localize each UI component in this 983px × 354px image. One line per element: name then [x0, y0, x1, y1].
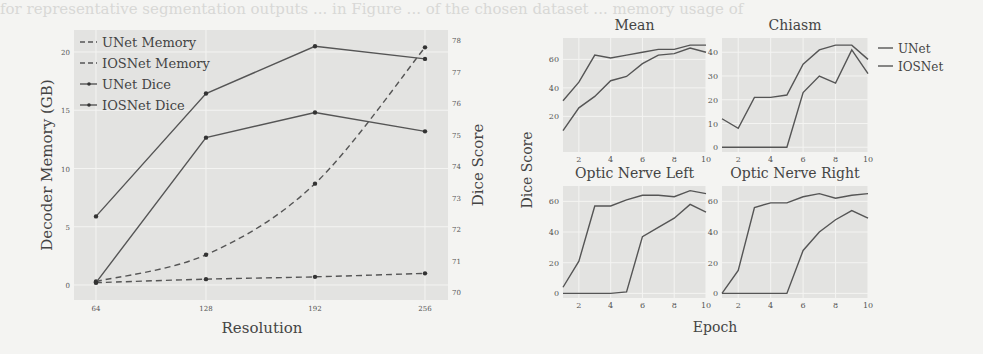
- x-tick-label: 2: [576, 301, 581, 310]
- x-axis-label: Resolution: [222, 319, 303, 337]
- legend-label: IOSNet Dice: [102, 98, 185, 113]
- data-point: [204, 253, 208, 257]
- y-axis-label: Decoder Memory (GB): [38, 79, 56, 250]
- data-point: [423, 271, 427, 275]
- data-point: [313, 44, 317, 48]
- data-point: [204, 277, 208, 281]
- x-tick-label: 4: [768, 301, 773, 310]
- legend-label: UNet Dice: [102, 77, 171, 92]
- data-point: [423, 129, 427, 133]
- y-tick-label: 10: [61, 166, 70, 174]
- x-tick-label: 192: [308, 305, 321, 313]
- memory-dice-chart: 0510152070717273747576777864128192256Res…: [38, 30, 487, 337]
- x-tick-label: 10: [701, 301, 711, 310]
- x-tick-label: 6: [640, 155, 645, 164]
- y-tick-label: 0: [66, 282, 70, 290]
- y-tick-label: 20: [708, 96, 718, 105]
- x-tick-label: 10: [701, 155, 711, 164]
- data-point: [94, 280, 98, 284]
- data-point: [204, 135, 208, 139]
- x-tick-label: 2: [736, 301, 741, 310]
- legend-label: UNet Memory: [102, 35, 197, 50]
- y-tick-label: 60: [549, 55, 559, 64]
- y-tick-label: 10: [708, 120, 718, 129]
- x-tick-label: 2: [736, 155, 741, 164]
- shared-y-axis-label: Dice Score: [519, 131, 535, 208]
- y-tick-label: 60: [708, 197, 718, 206]
- y-tick-label: 40: [549, 228, 559, 237]
- data-point: [204, 91, 208, 95]
- y-tick-label: 20: [708, 259, 718, 268]
- y-tick-label: 15: [61, 107, 70, 115]
- y-tick-label: 20: [549, 259, 559, 268]
- subplot-title: Optic Nerve Right: [730, 165, 860, 181]
- y2-tick-label: 76: [452, 100, 461, 108]
- x-tick-label: 6: [801, 301, 806, 310]
- y-tick-label: 40: [708, 48, 718, 57]
- figure: 0510152070717273747576777864128192256Res…: [0, 0, 983, 354]
- y-tick-label: 0: [554, 289, 559, 298]
- x-tick-label: 6: [801, 155, 806, 164]
- y-tick-label: 20: [549, 112, 559, 121]
- y2-tick-label: 75: [452, 132, 461, 140]
- y-tick-label: 30: [708, 72, 718, 81]
- subplot-chiasm: 010203040246810Chiasm: [708, 17, 873, 164]
- data-point: [94, 214, 98, 218]
- x-tick-label: 256: [418, 305, 432, 313]
- legend-label: IOSNet Memory: [102, 56, 210, 71]
- y2-tick-label: 77: [452, 69, 461, 77]
- x-tick-label: 64: [92, 305, 101, 313]
- right-legend-label: IOSNet: [898, 60, 943, 74]
- y-tick-label: 5: [66, 224, 70, 232]
- y2-axis-label: Dice Score: [469, 124, 487, 207]
- x-tick-label: 128: [199, 305, 212, 313]
- y2-tick-label: 71: [452, 258, 461, 266]
- subplot-mean: 204060246810Mean: [549, 17, 711, 164]
- y-tick-label: 40: [708, 228, 718, 237]
- y2-tick-label: 70: [452, 289, 461, 297]
- data-point: [313, 181, 317, 185]
- x-tick-label: 6: [640, 301, 645, 310]
- y2-tick-label: 73: [452, 195, 461, 203]
- x-tick-label: 2: [576, 155, 581, 164]
- right-legend-label: UNet: [898, 42, 931, 56]
- subplot-title: Optic Nerve Left: [575, 165, 694, 181]
- subplot-optic-nerve-left: 0204060246810Optic Nerve Left: [549, 165, 711, 310]
- x-tick-label: 10: [863, 301, 873, 310]
- y-tick-label: 0: [713, 289, 718, 298]
- subplot-title: Mean: [615, 17, 655, 33]
- x-tick-label: 4: [768, 155, 773, 164]
- y-tick-label: 0: [713, 143, 718, 152]
- data-point: [313, 110, 317, 114]
- y-tick-label: 60: [549, 197, 559, 206]
- data-point: [423, 45, 427, 49]
- y2-tick-label: 78: [452, 37, 461, 45]
- y2-tick-label: 72: [452, 226, 461, 234]
- y-tick-label: 20: [61, 49, 70, 57]
- shared-x-axis-label: Epoch: [693, 319, 737, 335]
- x-tick-label: 8: [672, 155, 677, 164]
- x-tick-label: 4: [608, 301, 613, 310]
- subplot-title: Chiasm: [768, 17, 821, 33]
- x-tick-label: 4: [608, 155, 613, 164]
- x-tick-label: 10: [863, 155, 873, 164]
- x-tick-label: 8: [833, 155, 838, 164]
- y2-tick-label: 74: [452, 163, 461, 171]
- data-point: [423, 57, 427, 61]
- x-tick-label: 8: [833, 301, 838, 310]
- data-point: [313, 275, 317, 279]
- subplot-optic-nerve-right: 0204060246810Optic Nerve Right: [708, 165, 873, 310]
- y-tick-label: 40: [549, 84, 559, 93]
- x-tick-label: 8: [672, 301, 677, 310]
